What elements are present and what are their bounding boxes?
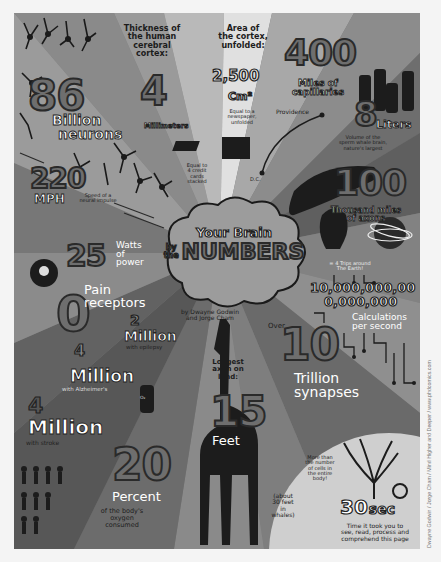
reading-time-note: Time it took you tosee, read, process an… bbox=[332, 523, 418, 542]
calculations-label: Calculationsper second bbox=[352, 313, 407, 331]
calculations-number-line-2: 0,000,000 bbox=[324, 295, 397, 308]
credit-cards-icon bbox=[172, 141, 200, 151]
synapses-note: More thanthe numberof cells inthe entire… bbox=[302, 455, 338, 481]
synapses-label: Trillionsynapses bbox=[294, 371, 359, 399]
map-label-dc: D.C. bbox=[250, 177, 261, 182]
longest-axon-number: 15 bbox=[210, 391, 266, 433]
synapses-number: 10 bbox=[280, 323, 339, 367]
cortex-thickness-note: Equal to4 creditcardsstacked bbox=[180, 163, 214, 184]
epilepsy-note: with epilepsy bbox=[126, 345, 162, 351]
stroke-unit: Million bbox=[28, 417, 103, 437]
axons-number: 100 bbox=[334, 165, 406, 201]
authors: by Dwayne Godwin and Jorge Cham bbox=[170, 309, 250, 322]
neurons-number: 86 bbox=[28, 75, 84, 117]
map-label-providence: Providence bbox=[276, 109, 309, 115]
capillaries-label: Miles ofcapillaries bbox=[276, 79, 360, 97]
authors-line-2: and Jorge Cham bbox=[170, 315, 250, 321]
infographic-poster: Your Brain by the NUMBERS by Dwayne Godw… bbox=[14, 13, 420, 549]
whale-brain-unit: Liters bbox=[376, 119, 411, 130]
cortex-thickness-unit: Millimeters bbox=[144, 123, 188, 130]
poster-title: Your Brain by the NUMBERS bbox=[164, 226, 304, 263]
axons-label: Thousand milesof axons bbox=[324, 207, 408, 223]
alzheimers-note: with Alzheimer's bbox=[62, 387, 107, 393]
cortex-area-note: Equal to anewspaper,unfolded bbox=[214, 109, 270, 125]
calculations-number-line-1: 10,000,000,00 bbox=[310, 281, 415, 294]
nerve-speed-unit: MPH bbox=[34, 193, 65, 205]
cortex-area-heading: Area ofthe cortex,unfolded: bbox=[210, 25, 276, 50]
newspaper-icon bbox=[222, 137, 250, 159]
title-line-1: Your Brain bbox=[164, 226, 304, 239]
oxygen-note: of the body'soxygenconsumed bbox=[84, 508, 160, 528]
axons-note: = 4 Trips aroundThe Earth! bbox=[328, 261, 372, 272]
epilepsy-number: 2 bbox=[130, 313, 140, 327]
cortex-thickness-number: 4 bbox=[140, 71, 167, 111]
oxygen-number: 20 bbox=[112, 443, 171, 487]
epilepsy-unit: Million bbox=[124, 329, 177, 343]
whale-brain-note: Volume of thesperm whale brain,nature's … bbox=[330, 135, 396, 151]
cortex-thickness-heading: Thickness ofthe humancerebralcortex: bbox=[112, 25, 192, 59]
oxygen-unit: Percent bbox=[112, 489, 161, 504]
whale-brain-number: 8 bbox=[354, 97, 377, 131]
reading-time-value: 30 sec bbox=[340, 497, 395, 517]
title-numbers: NUMBERS bbox=[182, 241, 305, 263]
cortex-area-number: 2,500 bbox=[212, 69, 259, 84]
image-credit: Dwayne Godwin / Jorge Cham / Mind Higher… bbox=[426, 360, 432, 548]
stroke-number: 4 bbox=[28, 395, 43, 417]
reading-time-unit: sec bbox=[369, 502, 395, 516]
cortex-area-unit: Cm² bbox=[228, 91, 252, 102]
stroke-note: with stroke bbox=[26, 440, 59, 446]
nerve-speed-number: 220 bbox=[30, 165, 85, 193]
oxygen-tank-label: O₂ bbox=[140, 396, 145, 401]
power-label: Wattsofpower bbox=[116, 241, 144, 267]
longest-axon-note: (about30 feetinwhales) bbox=[266, 493, 300, 518]
alzheimers-unit: Million bbox=[70, 368, 134, 385]
pain-label: Painreceptors bbox=[84, 283, 146, 309]
alzheimers-number: 4 bbox=[74, 343, 85, 359]
title-the: the bbox=[164, 252, 179, 260]
longest-axon-heading: Longestaxon onland: bbox=[208, 359, 248, 381]
reading-time-number: 30 bbox=[340, 497, 368, 517]
capillaries-number: 400 bbox=[284, 35, 356, 71]
power-number: 25 bbox=[66, 241, 106, 271]
longest-axon-unit: Feet bbox=[212, 433, 240, 448]
nerve-speed-note: Speed of aneural impulse bbox=[76, 193, 120, 204]
neurons-label-1: Billion bbox=[52, 113, 101, 127]
neurons-label-2: neurons bbox=[58, 127, 122, 141]
